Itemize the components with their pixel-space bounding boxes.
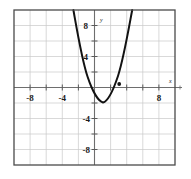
y-tick-label-8: 8 <box>84 21 89 31</box>
y-tick-label-4: 4 <box>84 52 89 62</box>
x-axis-label: x <box>168 78 172 84</box>
x-tick-label-neg4: -4 <box>59 93 67 103</box>
y-tick-label-neg8: -8 <box>83 145 91 155</box>
graph-canvas: 8 4 -4 -8 -8 -4 8 y x <box>0 0 191 179</box>
x-tick-label-8: 8 <box>157 93 162 103</box>
graph-figure: 8 4 -4 -8 -8 -4 8 y x <box>0 0 191 179</box>
y-tick-label-neg4: -4 <box>83 114 91 124</box>
marked-point <box>117 82 121 86</box>
x-tick-label-neg8: -8 <box>26 93 34 103</box>
y-axis-label: y <box>99 17 103 23</box>
